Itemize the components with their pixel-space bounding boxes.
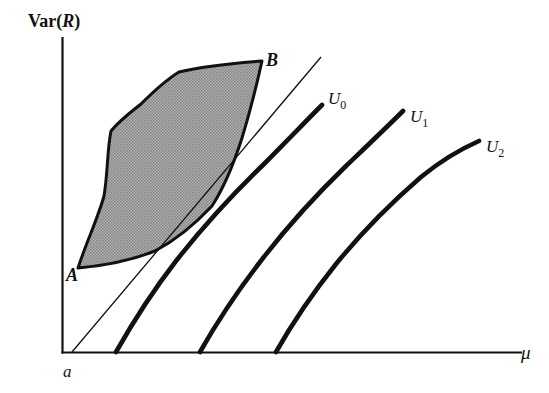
curve-label-u2-sub: 2	[498, 146, 504, 160]
x-axis-label: μ	[520, 342, 531, 363]
y-axis-label: Var(R)	[28, 11, 80, 32]
figure-container: Var(R) μ a A B U0 U1 U2	[0, 0, 549, 393]
var-mu-diagram: Var(R) μ a A B U0 U1 U2	[0, 0, 549, 393]
curve-label-u1-sub: 1	[422, 116, 428, 130]
origin-tick-label: a	[63, 362, 72, 381]
curve-label-u0-sub: 0	[340, 98, 346, 112]
region-vertex-label-a: A	[65, 265, 78, 285]
y-axis-label-fn: Var	[28, 11, 56, 31]
y-axis-label-var: R	[61, 11, 74, 31]
region-vertex-label-b: B	[265, 50, 278, 70]
